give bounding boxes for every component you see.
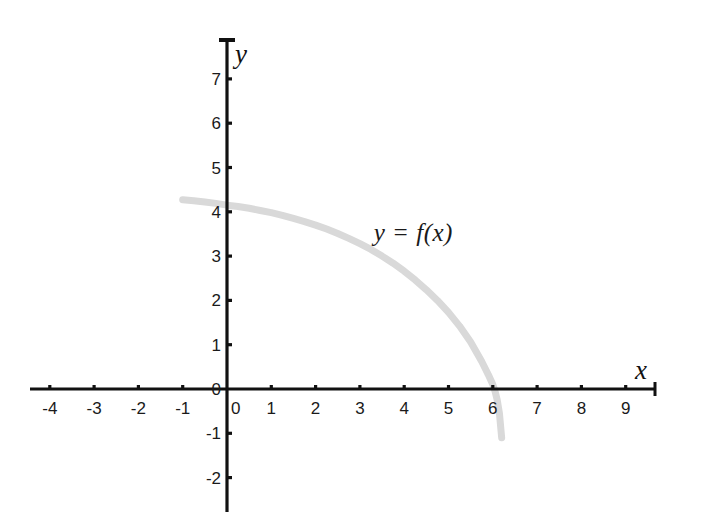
y-tick-label: 5 xyxy=(191,160,221,177)
y-tick-label: 7 xyxy=(191,71,221,88)
x-tick-label: 6 xyxy=(473,400,513,417)
x-tick-label: 8 xyxy=(561,400,601,417)
y-tick-label: 2 xyxy=(191,292,221,309)
x-tick-label: -1 xyxy=(163,400,203,417)
x-tick-label: -2 xyxy=(118,400,158,417)
x-axis-label: x xyxy=(635,357,647,384)
x-tick-label: 1 xyxy=(251,400,291,417)
axes-group xyxy=(30,40,655,512)
x-tick-label: 3 xyxy=(340,400,380,417)
y-tick-label: 4 xyxy=(191,204,221,221)
x-tick-label: 4 xyxy=(384,400,424,417)
x-tick-label: 5 xyxy=(429,400,469,417)
y-axis-label: y xyxy=(235,41,247,68)
graph-figure: -4-3-2-10123456789 -2-101234567 x y y = … xyxy=(0,0,706,518)
x-tick-label: 2 xyxy=(296,400,336,417)
x-tick-label: -3 xyxy=(74,400,114,417)
y-tick-label: 6 xyxy=(191,115,221,132)
y-tick-label: 3 xyxy=(191,248,221,265)
y-tick-label: -2 xyxy=(191,470,221,487)
y-tick-label: 0 xyxy=(191,381,221,398)
x-tick-label: 7 xyxy=(517,400,557,417)
curve-equation-label: y = f(x) xyxy=(374,220,453,245)
plot-canvas xyxy=(0,0,706,518)
y-tick-label: 1 xyxy=(191,337,221,354)
x-tick-label: -4 xyxy=(30,400,70,417)
x-tick-label: 0 xyxy=(231,400,240,417)
x-tick-label: 9 xyxy=(606,400,646,417)
y-tick-label: -1 xyxy=(191,425,221,442)
